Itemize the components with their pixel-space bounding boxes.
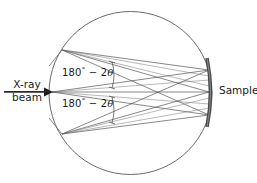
sample-label: Sample bbox=[219, 85, 257, 96]
ray-line bbox=[62, 108, 209, 134]
angle-label-upper: 180° − 2θ bbox=[62, 68, 114, 79]
vertex-connector bbox=[49, 118, 62, 134]
xray-beam-label: X-ray beam bbox=[4, 79, 50, 103]
angle-lower-value: 180 bbox=[62, 98, 82, 109]
xray-beam-label-line2: beam bbox=[4, 92, 50, 103]
angle-label-lower: 180° − 2θ bbox=[62, 99, 114, 110]
ray-line bbox=[52, 80, 209, 92]
theta-symbol-icon: θ bbox=[107, 98, 113, 109]
angle-lower-operator: − 2 bbox=[85, 98, 107, 109]
angle-upper-value: 180 bbox=[62, 67, 82, 78]
focusing-circle bbox=[49, 12, 212, 175]
xray-focusing-geometry-diagram: X-ray beam Sample 180° − 2θ 180° − 2θ bbox=[0, 0, 257, 183]
vertex-connector bbox=[49, 50, 62, 66]
angle-upper-operator: − 2 bbox=[85, 67, 107, 78]
xray-beam-label-line1: X-ray bbox=[4, 79, 50, 90]
theta-symbol-icon: θ bbox=[107, 67, 113, 78]
